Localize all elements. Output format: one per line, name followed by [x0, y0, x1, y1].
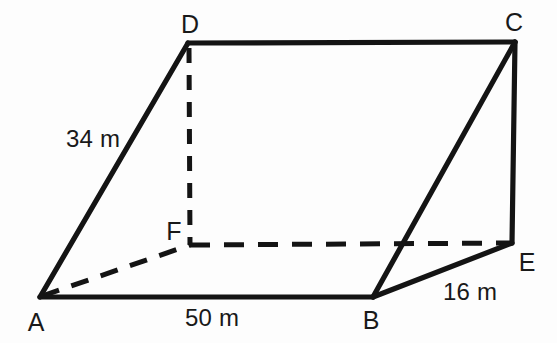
edge-F-E [190, 243, 512, 245]
vertex-label-e: E [519, 248, 536, 277]
measurement-label-ad: 34 m [66, 125, 120, 153]
vertex-label-a: A [28, 308, 45, 337]
vertex-label-c: C [505, 8, 523, 37]
measurement-label-be: 16 m [443, 278, 497, 306]
vertex-label-d: D [181, 10, 199, 39]
vertex-label-f: F [166, 217, 181, 246]
geometry-diagram: A B C D E F 34 m 50 m 16 m [0, 0, 557, 343]
edge-D-C [188, 42, 515, 43]
edge-C-E [512, 42, 515, 243]
edge-A-D [40, 43, 188, 297]
visible-edges-group [40, 42, 515, 297]
edge-D-F [189, 48, 190, 245]
vertex-label-b: B [363, 306, 380, 335]
measurement-label-ab: 50 m [185, 304, 239, 332]
edge-B-C [373, 42, 515, 297]
